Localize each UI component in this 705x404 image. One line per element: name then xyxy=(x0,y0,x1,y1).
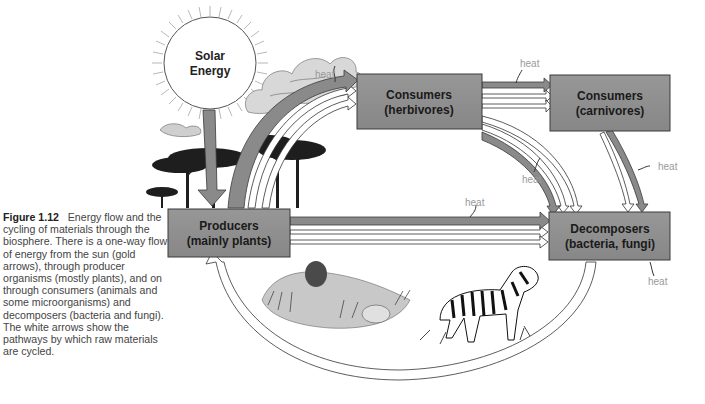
sun-label-line1: Solar xyxy=(195,49,225,63)
heat-label-producers-to-herbivores: heat xyxy=(315,69,335,80)
heat-label-carnivores-to-decomposers: heat xyxy=(658,161,678,172)
carnivores-label-line1: Consumers xyxy=(577,89,643,103)
material-arrow-decomposers-to-producers xyxy=(206,252,596,380)
heat-arrow-icon xyxy=(516,70,522,83)
material-arrow-producers-to-decomposers-2 xyxy=(290,236,548,248)
zebra-illustration xyxy=(420,266,538,344)
material-arrow-herbivores-to-carnivores-1 xyxy=(482,90,552,102)
decomposers-label-line1: Decomposers xyxy=(570,222,650,236)
heat-label-herbivores-to-carnivores: heat xyxy=(520,58,540,69)
sun-label-line2: Energy xyxy=(190,64,231,78)
energy-flow-diagram: Solar Energy xyxy=(0,0,705,404)
energy-arrow-producers-to-decomposers xyxy=(290,212,550,229)
heat-label-producers-to-decomposers: heat xyxy=(465,197,485,208)
heat-arrow-icon xyxy=(650,262,654,276)
herbivores-label-line2: (herbivores) xyxy=(384,103,453,117)
heat-label-decomposers-out: heat xyxy=(648,276,668,287)
heat-label-herbivores-to-decomposers: heat xyxy=(522,174,542,185)
producers-label-line1: Producers xyxy=(199,219,259,233)
material-arrow-producers-to-decomposers-1 xyxy=(290,226,548,238)
heat-arrow-icon xyxy=(638,166,650,170)
node-decomposers: Decomposers (bacteria, fungi) xyxy=(549,212,670,260)
decomposers-label-line2: (bacteria, fungi) xyxy=(565,237,655,251)
lions-illustration xyxy=(262,261,410,328)
node-carnivores: Consumers (carnivores) xyxy=(550,75,670,131)
herbivores-label-line1: Consumers xyxy=(386,88,452,102)
material-arrow-herbivores-to-carnivores-2 xyxy=(482,100,552,112)
carnivores-label-line2: (carnivores) xyxy=(576,104,645,118)
node-herbivores: Consumers (herbivores) xyxy=(357,74,482,129)
node-producers: Producers (mainly plants) xyxy=(168,209,290,257)
producers-label-line2: (mainly plants) xyxy=(187,234,272,248)
